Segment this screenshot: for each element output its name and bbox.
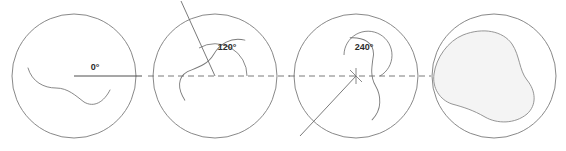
panel-2-angle-label: 120° bbox=[218, 42, 237, 52]
panel-3-angle-label: 240° bbox=[355, 42, 374, 52]
panel-2-curve bbox=[172, 22, 244, 111]
panel-120-degrees: 120° bbox=[148, 1, 290, 138]
diagram-canvas: 0° 120° 240° bbox=[0, 0, 566, 151]
panel-1-angle-label: 0° bbox=[91, 62, 100, 72]
panel-2-curve-group bbox=[172, 22, 244, 111]
panel-1-curve bbox=[28, 68, 110, 104]
panel-union-region bbox=[432, 14, 556, 138]
panel-3-angle-arc bbox=[344, 31, 392, 76]
panel-4-union-shape bbox=[434, 31, 534, 122]
panel-3-rotation-line bbox=[300, 76, 356, 136]
panel-0-degrees: 0° bbox=[12, 14, 142, 138]
rotation-sequence-diagram: 0° 120° 240° bbox=[0, 0, 566, 151]
panel-2-rotation-line bbox=[181, 1, 215, 76]
panel-240-degrees: 240° bbox=[289, 14, 431, 138]
